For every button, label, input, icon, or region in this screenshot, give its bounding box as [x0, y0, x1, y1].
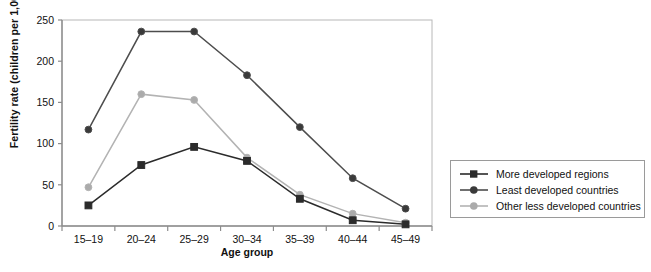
y-tick-label: 100 — [36, 137, 54, 149]
y-tick-label: 200 — [36, 55, 54, 67]
x-tick-label: 40–44 — [338, 233, 367, 245]
data-point-marker — [296, 124, 303, 131]
data-point-marker — [296, 195, 303, 202]
legend-swatch-circle-light-icon — [459, 200, 489, 212]
data-point-marker — [191, 143, 198, 150]
data-point-marker — [191, 28, 198, 35]
legend-item-other-less-developed-countries: Other less developed countries — [459, 198, 638, 214]
y-tick-label: 250 — [36, 14, 54, 26]
x-tick-label: 25–29 — [180, 233, 209, 245]
data-point-marker — [402, 221, 409, 228]
legend-item-least-developed-countries: Least developed countries — [459, 182, 638, 198]
y-axis-title: Fertility rate (children per 1,000 women… — [5, 0, 23, 147]
y-tick-label: 50 — [42, 179, 54, 191]
y-tick-label: 0 — [48, 220, 54, 232]
data-point-marker — [244, 72, 251, 79]
legend-swatch-circle-dark-icon — [459, 184, 489, 196]
data-point-marker — [349, 217, 356, 224]
legend-item-more-developed-regions: More developed regions — [459, 166, 638, 182]
plot-frame — [62, 20, 432, 226]
x-tick-label: 15–19 — [74, 233, 103, 245]
data-point-marker — [85, 184, 92, 191]
data-point-marker — [138, 91, 145, 98]
x-tick-label: 45–49 — [391, 233, 420, 245]
x-axis-title: Age group — [62, 246, 432, 258]
data-point-marker — [138, 162, 145, 169]
data-point-marker — [402, 205, 409, 212]
data-point-marker — [85, 126, 92, 133]
data-point-marker — [349, 175, 356, 182]
legend-label: Least developed countries — [496, 182, 619, 198]
data-point-marker — [191, 97, 198, 104]
data-point-marker — [138, 28, 145, 35]
legend-swatch-square-icon — [459, 168, 489, 180]
data-point-marker — [244, 158, 251, 165]
x-tick-label: 35–39 — [285, 233, 314, 245]
legend-label: Other less developed countries — [496, 198, 641, 214]
y-axis-title-text: Fertility rate (children per 1,000 women… — [8, 0, 20, 148]
series-line — [88, 32, 405, 209]
data-point-marker — [85, 202, 92, 209]
chart-canvas: 05010015020025015–1920–2425–2930–3435–39… — [0, 0, 651, 272]
data-point-marker — [349, 210, 356, 217]
fertility-rate-line-chart: 05010015020025015–1920–2425–2930–3435–39… — [0, 0, 651, 272]
x-tick-label: 30–34 — [232, 233, 261, 245]
y-tick-label: 150 — [36, 96, 54, 108]
legend-label: More developed regions — [496, 166, 609, 182]
chart-legend: More developed regions Least developed c… — [450, 160, 645, 218]
x-tick-label: 20–24 — [127, 233, 156, 245]
